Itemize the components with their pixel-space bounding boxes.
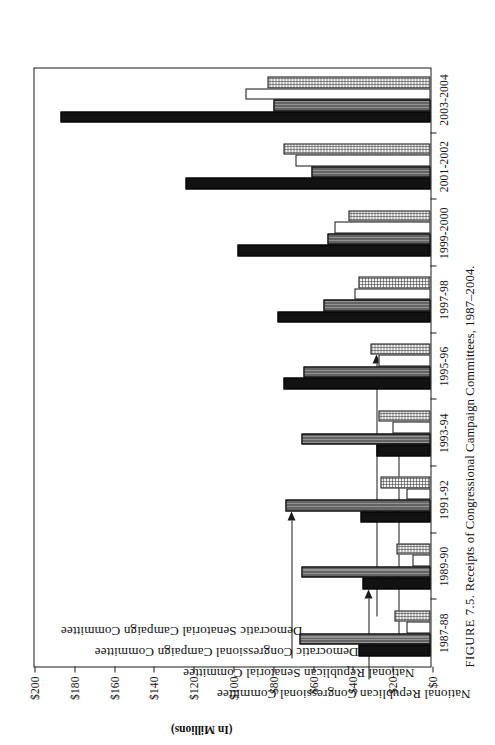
chart-plot-area: $200$180$160$140$120$100$80$60$40$20$0 1… — [33, 67, 431, 667]
bar-nrsc-1995-96 — [303, 366, 430, 378]
category-label: 1989-90 — [437, 546, 449, 586]
bar-nrcc-1989-90 — [362, 578, 430, 590]
callout-arrowhead-nrcc — [364, 589, 372, 598]
category-tick — [430, 265, 436, 266]
category-tick — [430, 465, 436, 466]
bar-dccc-2003-2004 — [245, 88, 430, 100]
value-tick — [74, 666, 75, 672]
bar-dccc-2001-2002 — [295, 155, 430, 167]
bar-dscc-2003-2004 — [267, 76, 430, 88]
bar-nrcc-1993-94 — [376, 444, 430, 456]
bar-nrsc-1989-90 — [301, 566, 430, 578]
bar-dscc-1989-90 — [396, 543, 430, 555]
category-tick — [430, 198, 436, 199]
bar-dccc-1991-92 — [406, 488, 430, 500]
bar-dscc-1993-94 — [378, 410, 430, 422]
bar-nrsc-1991-92 — [285, 499, 430, 511]
bar-dscc-1999-2000 — [348, 210, 430, 222]
bar-dccc-1997-98 — [354, 288, 430, 300]
callout-label-dscc: Democratic Senatorial Campaign Committee — [60, 622, 302, 638]
bar-dscc-1991-92 — [380, 476, 430, 488]
value-tick — [432, 666, 433, 672]
bar-dccc-1993-94 — [392, 421, 430, 433]
chart-plot-inner: $200$180$160$140$120$100$80$60$40$20$0 1… — [34, 68, 430, 666]
category-label: 1997-98 — [437, 279, 449, 319]
category-tick — [430, 598, 436, 599]
bar-dscc-1997-98 — [358, 276, 430, 288]
bar-nrsc-1987-88 — [299, 633, 430, 645]
bar-nrsc-1999-2000 — [327, 233, 430, 245]
bar-nrcc-1991-92 — [360, 511, 430, 523]
bar-dccc-1995-96 — [378, 355, 430, 367]
category-tick — [430, 398, 436, 399]
category-label: 1993-94 — [437, 413, 449, 453]
value-tick-label: $200 — [28, 676, 40, 699]
value-tick-label: $140 — [147, 676, 159, 699]
bar-nrcc-1999-2000 — [237, 244, 430, 256]
bar-nrcc-1997-98 — [277, 311, 430, 323]
figure-number: FIGURE 7.5. — [462, 594, 476, 667]
bar-dscc-1987-88 — [394, 610, 430, 622]
bar-dccc-1999-2000 — [334, 221, 430, 233]
category-label: 2001-2002 — [437, 140, 449, 192]
category-label: 2003-2004 — [437, 74, 449, 126]
figure-caption: FIGURE 7.5. Receipts of Congressional Ca… — [462, 265, 477, 667]
bar-nrcc-2001-2002 — [185, 178, 430, 190]
callout-label-nrcc: National Republican Congressional Commit… — [216, 685, 470, 701]
bar-nrsc-2003-2004 — [273, 99, 430, 111]
bar-nrsc-1997-98 — [323, 299, 430, 311]
bar-nrsc-1993-94 — [301, 433, 430, 445]
figure-caption-text: Receipts of Congressional Campaign Commi… — [462, 265, 476, 591]
category-label: 1987-88 — [437, 613, 449, 653]
category-label: 1999-2000 — [437, 207, 449, 259]
bar-nrcc-1995-96 — [283, 378, 430, 390]
bar-nrcc-1987-88 — [358, 644, 430, 656]
callout-leader-dccc — [398, 442, 399, 637]
category-tick — [430, 532, 436, 533]
figure-stage: $200$180$160$140$120$100$80$60$40$20$0 1… — [0, 0, 495, 745]
value-tick-label: $160 — [108, 676, 120, 699]
value-axis-title: (In Millions) — [170, 723, 232, 735]
callout-arrowhead-nrsc — [287, 511, 295, 520]
callout-label-nrsc: National Republican Senatorial Committee — [183, 664, 414, 680]
bar-nrcc-2003-2004 — [60, 111, 430, 123]
bar-dscc-1995-96 — [370, 343, 430, 355]
bar-dscc-2001-2002 — [283, 143, 430, 155]
category-label: 1991-92 — [437, 479, 449, 519]
category-tick — [430, 332, 436, 333]
bar-dccc-1987-88 — [406, 621, 430, 633]
value-tick-label: $180 — [68, 676, 80, 699]
category-tick — [430, 132, 436, 133]
bar-dccc-1989-90 — [412, 555, 430, 567]
bar-nrsc-2001-2002 — [311, 166, 430, 178]
category-label: 1995-96 — [437, 346, 449, 386]
value-tick — [153, 666, 154, 672]
value-tick — [34, 666, 35, 672]
value-tick — [114, 666, 115, 672]
callout-label-dccc: Democratic Congressional Campaign Commit… — [94, 643, 358, 659]
